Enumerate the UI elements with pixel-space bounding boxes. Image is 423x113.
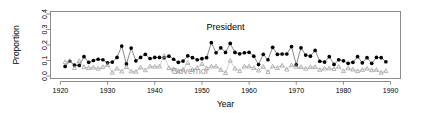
x-axis-tick-label: 1930 (100, 87, 116, 94)
data-point (351, 61, 355, 65)
data-point (87, 61, 91, 65)
data-point (242, 64, 246, 68)
series-annotation-president: President (206, 22, 245, 32)
series-annotation-governor: Governor (171, 66, 209, 76)
data-point (219, 46, 223, 50)
data-point (261, 52, 265, 56)
data-point (346, 66, 350, 70)
data-point (148, 64, 152, 68)
data-point (276, 52, 280, 56)
y-axis-tick-label: 0.4 (41, 9, 48, 19)
x-axis-tick-label: 1940 (147, 87, 163, 94)
data-point (280, 63, 284, 67)
y-axis-tick-label: 0.1 (41, 56, 48, 66)
y-axis-tick-label: 0.3 (41, 25, 48, 35)
data-point (209, 64, 213, 68)
data-point (82, 55, 86, 59)
x-axis-tick-label: 1950 (194, 87, 210, 94)
data-point (365, 66, 369, 70)
data-point (101, 65, 105, 69)
data-point (285, 52, 289, 56)
data-point (77, 64, 81, 68)
data-point (210, 41, 214, 45)
data-point (337, 58, 341, 62)
data-point (252, 54, 256, 58)
data-point (374, 68, 378, 72)
data-point (224, 51, 228, 55)
data-point (266, 58, 270, 62)
data-point (271, 64, 275, 68)
data-point (309, 54, 313, 58)
data-point (375, 56, 379, 60)
x-axis-tick-label: 1990 (383, 87, 399, 94)
chart-figure: 0.00.10.20.30.4Proportion192019301940195… (0, 0, 423, 113)
data-point (342, 59, 346, 63)
data-point (101, 58, 105, 62)
data-point (143, 52, 147, 56)
proportion-by-year-line-chart: 0.00.10.20.30.4Proportion192019301940195… (0, 0, 423, 113)
data-point (332, 63, 336, 67)
data-point (134, 59, 138, 63)
data-point (356, 55, 360, 59)
data-point (290, 45, 294, 49)
data-point (228, 42, 232, 46)
series-governor (63, 54, 388, 75)
data-point (308, 65, 312, 69)
data-point (379, 56, 383, 60)
data-point (214, 51, 218, 55)
data-point (365, 56, 369, 60)
x-axis-tick-label: 1920 (53, 87, 69, 94)
data-point (148, 57, 152, 61)
data-point (115, 56, 119, 60)
data-point (384, 69, 388, 73)
data-point (243, 51, 247, 55)
data-point (167, 54, 171, 58)
y-axis-tick-label: 0.0 (41, 71, 48, 81)
data-point (313, 49, 317, 53)
data-point (233, 51, 237, 55)
data-point (172, 57, 176, 61)
data-point (195, 58, 199, 62)
data-point (257, 63, 261, 67)
data-point (304, 53, 308, 57)
data-point (63, 65, 67, 69)
data-point (92, 59, 96, 63)
data-point (247, 50, 251, 54)
data-point (346, 61, 350, 65)
data-point (205, 56, 209, 60)
data-point (337, 64, 341, 68)
data-point (327, 55, 331, 59)
data-point (280, 52, 284, 56)
data-point (214, 64, 218, 68)
data-point (370, 61, 374, 65)
data-point (153, 56, 157, 60)
y-axis-tick-label: 0.2 (41, 40, 48, 50)
x-axis-title: Year (217, 99, 234, 109)
data-point (313, 65, 317, 69)
data-point (247, 64, 251, 68)
data-point (327, 66, 331, 70)
data-point (191, 56, 195, 60)
data-point (271, 45, 275, 49)
data-point (110, 60, 114, 64)
data-point (289, 63, 293, 67)
y-axis-title: Proportion (11, 25, 21, 64)
x-axis-tick-label: 1960 (241, 87, 257, 94)
data-point (139, 56, 143, 60)
x-axis-tick-label: 1970 (288, 87, 304, 94)
x-axis-tick-label: 1980 (336, 87, 352, 94)
data-point (91, 65, 95, 69)
data-point (96, 57, 100, 61)
data-point (384, 60, 388, 64)
series-president (63, 41, 387, 68)
data-point (176, 61, 180, 65)
data-point (129, 46, 133, 50)
data-point (181, 59, 185, 63)
data-point (120, 44, 124, 48)
data-point (299, 46, 303, 50)
data-point (323, 60, 327, 64)
data-point (318, 59, 322, 63)
data-point (360, 61, 364, 65)
data-point (238, 52, 242, 56)
data-point (186, 54, 190, 58)
